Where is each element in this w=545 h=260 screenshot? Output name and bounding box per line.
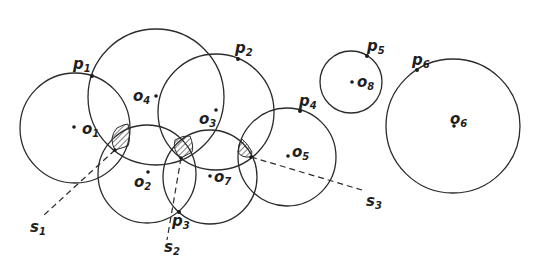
circle-o8: o8 xyxy=(320,51,382,113)
center-dot-o2 xyxy=(146,170,150,174)
segment-label-s3: s3 xyxy=(366,192,382,211)
center-label-o5: o5 xyxy=(292,143,309,162)
point-label-p3: p3 xyxy=(171,212,190,231)
center-label-o2: o2 xyxy=(134,173,151,192)
center-dot-o5 xyxy=(286,154,290,158)
segment-s1: s1 xyxy=(30,148,117,237)
point-dot xyxy=(236,57,240,61)
hatched-intersections xyxy=(112,124,252,158)
segment-endpoint-dot xyxy=(113,148,117,152)
point-label-p4: p4 xyxy=(298,92,317,111)
circle-o1: o1 xyxy=(20,73,130,183)
point-label-p6: p6 xyxy=(411,51,430,70)
point-p5: p5 xyxy=(365,37,385,58)
point-label-p1: p1 xyxy=(72,55,91,74)
center-dot-o4 xyxy=(154,94,158,98)
point-label-p2: p2 xyxy=(234,39,253,58)
circle-cover-diagram: o1o2o3o4o5o6o7o8 s1s2s3 p1p2p3p4p5p6 xyxy=(0,0,545,260)
center-dot-o7 xyxy=(208,174,212,178)
dashed-segments: s1s2s3 xyxy=(30,148,382,257)
center-label-o4: o4 xyxy=(133,87,150,106)
segment-label-s1: s1 xyxy=(30,218,46,237)
point-dot xyxy=(90,74,94,78)
center-label-o6: o6 xyxy=(450,110,467,129)
center-label-o7: o7 xyxy=(214,168,231,187)
circle-outline xyxy=(158,54,274,170)
circle-o6: o6 xyxy=(386,59,520,193)
center-dot-o3 xyxy=(214,108,218,112)
segment-label-s2: s2 xyxy=(164,238,180,257)
point-p4: p4 xyxy=(298,92,317,113)
center-label-o3: o3 xyxy=(199,110,216,129)
point-label-p5: p5 xyxy=(366,37,385,56)
point-p3: p3 xyxy=(171,210,190,231)
segment-endpoint-dot xyxy=(249,155,253,159)
point-p2: p2 xyxy=(234,39,253,61)
segment-endpoint-dot xyxy=(179,156,183,160)
center-dot-o8 xyxy=(350,80,354,84)
center-dot-o1 xyxy=(72,125,76,129)
point-p1: p1 xyxy=(72,55,94,78)
circles: o1o2o3o4o5o6o7o8 xyxy=(20,29,520,224)
point-p6: p6 xyxy=(411,51,430,72)
center-label-o8: o8 xyxy=(357,73,374,92)
circle-o3: o3 xyxy=(158,54,274,170)
